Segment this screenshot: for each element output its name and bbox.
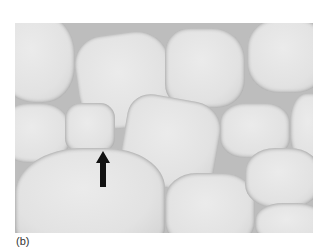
fat-cell — [165, 173, 255, 233]
fat-cell — [15, 148, 165, 233]
fat-cell — [15, 23, 75, 103]
panel-label: (b) — [16, 235, 29, 247]
fat-cell — [255, 203, 313, 233]
micrograph-image — [15, 23, 313, 233]
fat-cell — [247, 23, 313, 93]
arrow-up-icon — [96, 151, 110, 187]
fat-cell — [165, 28, 245, 108]
fat-cell — [65, 103, 115, 153]
fat-cell — [245, 148, 313, 208]
